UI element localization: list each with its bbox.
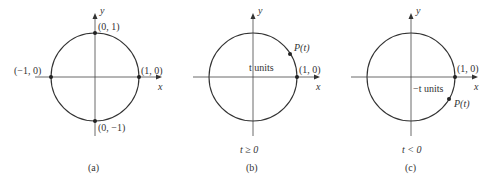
label-arc: −t units [413,83,443,94]
y-axis-arrow-icon [251,13,256,19]
label-left: (−1, 0) [14,65,41,77]
caption-b: (b) [246,162,258,174]
y-axis-label: y [257,5,263,16]
y-axis-arrow-icon [409,13,414,19]
y-axis-label: y [415,5,421,16]
label-p: P(t) [453,98,470,110]
y-axis-arrow-icon [93,13,98,19]
point-left [49,75,53,79]
label-arc: t units [249,62,274,73]
point-start [453,75,457,79]
label-bottom: (0, −1) [98,122,125,134]
point-start [295,75,299,79]
panel-a: y x (0, 1) (0, −1) (−1, 0) (1, 0) (a) [14,5,163,174]
x-axis-arrow-icon [314,75,320,80]
x-axis-label: x [473,81,479,92]
point-p [288,52,292,56]
panel-c: y x P(t) −t units (1, 0) t < 0 (c) [351,5,479,174]
x-axis-arrow-icon [472,75,478,80]
condition-b: t ≥ 0 [240,144,258,155]
label-p: P(t) [293,42,310,54]
panel-b: y x P(t) t units (1, 0) t ≥ 0 (b) [193,5,321,174]
x-axis-label: x [315,81,321,92]
caption-c: (c) [405,162,416,174]
label-top: (0, 1) [98,21,120,33]
x-axis-label: x [157,81,163,92]
point-p [447,97,451,101]
y-axis-label: y [99,5,105,16]
point-bottom [93,119,97,123]
label-right: (1, 0) [141,65,163,77]
label-start: (1, 0) [299,64,321,76]
condition-c: t < 0 [402,144,422,155]
label-start: (1, 0) [457,63,479,75]
point-top [93,31,97,35]
unit-circle-figure: y x (0, 1) (0, −1) (−1, 0) (1, 0) (a) y … [0,0,492,185]
caption-a: (a) [88,162,99,174]
